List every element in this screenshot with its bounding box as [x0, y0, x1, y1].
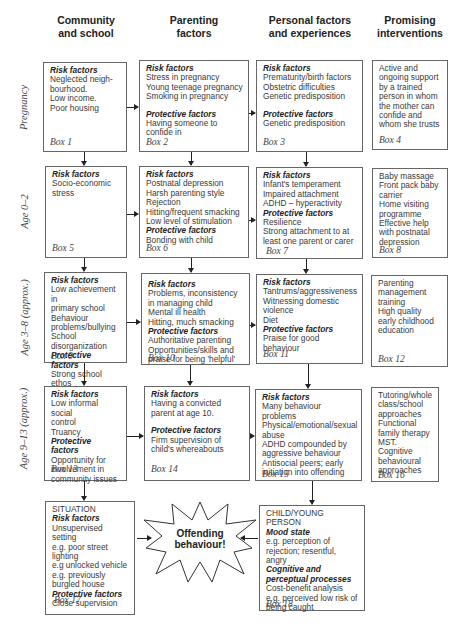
row-label-pregnancy: Pregnancy: [14, 62, 34, 152]
arrow-down: [84, 481, 85, 500]
column-header-personal: Personal factors and experiences: [256, 14, 364, 40]
box-text: stress: [52, 189, 121, 198]
box-number: Box 8: [379, 246, 401, 255]
box-18-child-young-person: CHILD/YOUNG PERSON Mood state e.g. perce…: [259, 505, 365, 611]
box-text: parent at age 10.: [151, 409, 244, 418]
box-12: Parenting management training High quali…: [371, 275, 448, 367]
row-label-text: Age 3–8 (approx.): [19, 279, 30, 355]
arrow-down: [306, 259, 307, 273]
box-text: whom she trusts: [379, 120, 442, 129]
protective-heading: Protective factors: [51, 437, 121, 456]
box-number: Box 1: [50, 138, 72, 147]
arrow-down: [312, 481, 313, 504]
arrow-right: [127, 214, 138, 215]
box-15: Risk factors Many behaviour problems Phy…: [255, 389, 362, 481]
arrow-right: [127, 436, 143, 437]
column-title-line: and school: [40, 27, 132, 40]
box-9: Risk factors Low achievement in primary …: [44, 272, 127, 363]
box-number: Box 2: [146, 138, 168, 147]
box-number: Box 17: [54, 596, 81, 605]
box-text: child's whereabouts: [151, 445, 244, 454]
box-text: Low informal social: [51, 399, 121, 418]
column-header-parenting: Parenting factors: [139, 14, 249, 40]
column-title-line: interventions: [370, 27, 450, 40]
box-2: Risk factors Stress in pregnancy Young t…: [139, 60, 249, 152]
arrow-right: [250, 436, 254, 437]
arrow-left: [241, 538, 258, 539]
box-text: Genetic predisposition: [263, 119, 357, 128]
row-label-text: Pregnancy: [19, 84, 30, 129]
box-text: Genetic predisposition: [263, 92, 357, 101]
row-label-age-0-2: Age 0–2: [14, 166, 34, 256]
column-header-community: Community and school: [40, 14, 132, 40]
box-16: Tutoring/whole class/school approaches F…: [371, 387, 439, 482]
box-number: Box 9: [51, 352, 73, 361]
arrow-down: [84, 363, 85, 385]
box-number: Box 13: [51, 465, 78, 474]
box-number: Box 4: [379, 136, 401, 145]
box-11: Risk factors Tantrums/aggressiveness Wit…: [256, 274, 363, 364]
box-number: Box 16: [378, 471, 405, 480]
box-text: least one parent or carer: [263, 237, 357, 246]
arrow-down: [84, 258, 85, 271]
box-7: Risk factors Infant's temperament Impair…: [256, 167, 363, 259]
column-title-line: Parenting: [139, 14, 249, 27]
arrow-down: [308, 364, 309, 388]
box-number: Box 5: [52, 244, 74, 253]
box-number: Box 12: [378, 355, 405, 364]
box-text: Many behaviour problems: [262, 402, 356, 421]
column-title-line: Community: [40, 14, 132, 27]
box-3: Risk factors Prematurity/birth factors O…: [256, 60, 363, 152]
box-6: Risk factors Postnatal depression Harsh …: [139, 166, 249, 258]
box-14: Risk factors Having a convicted parent a…: [144, 386, 250, 481]
box-number: Box 7: [266, 247, 288, 256]
box-4: Active and ongoing support by a trained …: [372, 60, 448, 150]
box-text: Smoking in pregnancy: [146, 92, 243, 101]
arrow-right: [250, 325, 255, 326]
box-text: Poor housing: [50, 104, 121, 113]
column-title-line: Promising: [370, 14, 450, 27]
box-8: Baby massage Front pack baby carrier Hom…: [372, 168, 448, 258]
box-number: Box 6: [146, 244, 168, 253]
arrow-down: [84, 152, 85, 165]
box-text: MST. Cognitive: [378, 438, 433, 457]
column-title-line: factors: [139, 27, 249, 40]
box-number: Box 3: [263, 138, 285, 147]
box-17-situation: SITUATION Risk factors Unsupervised sett…: [45, 501, 135, 615]
column-title-line: Personal factors: [256, 14, 364, 27]
box-text: Low achievement in: [51, 285, 121, 304]
box-title: CHILD/YOUNG PERSON: [266, 509, 359, 528]
box-10: Risk factors Problems, inconsistency in …: [141, 273, 250, 365]
box-number: Box 10: [148, 354, 175, 363]
box-5: Risk factors Socio-economic stress Box 5: [45, 166, 127, 258]
row-label-age-9-13: Age 9–13 (approx.): [14, 378, 34, 478]
box-text: community issues: [51, 475, 121, 484]
arrow-right: [137, 538, 151, 539]
box-number: Box 14: [151, 465, 178, 474]
row-label-age-3-8: Age 3–8 (approx.): [14, 272, 34, 362]
arrow-down: [191, 258, 192, 272]
arrow-down: [191, 152, 192, 165]
box-text: education: [378, 326, 442, 335]
column-header-interventions: Promising interventions: [370, 14, 450, 40]
arrow-right: [127, 107, 138, 108]
arrow-down: [190, 365, 191, 385]
box-text: rejection; resentful, angry: [266, 547, 359, 566]
box-1: Risk factors Neglected neigh- bourhood. …: [43, 62, 127, 152]
arrow-down: [306, 152, 307, 166]
box-text: Unsupervised setting: [52, 524, 129, 543]
column-title-line: and experiences: [256, 27, 364, 40]
box-number: Box 11: [263, 350, 289, 359]
arrow-right: [249, 113, 255, 114]
arrow-right: [127, 322, 140, 323]
row-label-text: Age 9–13 (approx.): [19, 387, 30, 469]
box-13: Risk factors Low informal social control…: [44, 386, 127, 481]
box-number: Box 18: [266, 600, 293, 609]
row-label-text: Age 0–2: [19, 194, 30, 229]
arrow-right: [249, 220, 255, 221]
box-number: Box 15: [262, 470, 289, 479]
